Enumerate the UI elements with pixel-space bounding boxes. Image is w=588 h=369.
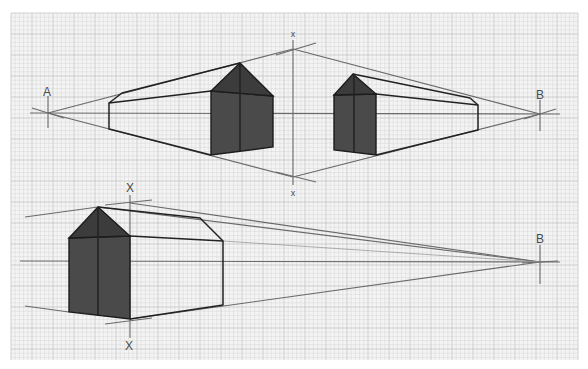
label-a: A — [43, 85, 51, 99]
label-axis-top: X — [126, 181, 134, 195]
label-axis-bottom: X — [125, 339, 133, 353]
label-b: B — [536, 88, 544, 102]
bottom-house-front-wall — [69, 236, 130, 319]
label-axis-top: x — [291, 29, 296, 39]
label-axis-bottom: x — [291, 188, 296, 198]
label-b: B — [536, 232, 544, 246]
right-house-front-wall — [334, 94, 376, 155]
left-house-front-wall — [211, 91, 273, 155]
perspective-drawing: A B x x B X X — [0, 0, 588, 369]
